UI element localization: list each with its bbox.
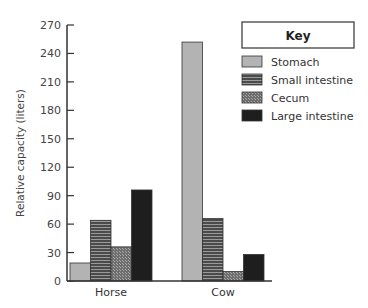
bar-cow-cecum [223,272,244,281]
y-tick-label: 90 [47,190,61,203]
bar-cow-stomach [182,42,203,281]
bar-horse-large-intestine [132,190,153,281]
y-tick-label: 240 [40,47,61,60]
legend-label: Large intestine [271,110,354,123]
x-category-label: Horse [95,286,127,299]
y-tick-label: 30 [47,247,61,260]
legend-swatch [242,74,262,85]
x-category-label: Cow [211,286,234,299]
bar-chart: Relative capacity (liters) 0306090120150… [0,0,368,308]
y-tick-label: 60 [47,218,61,231]
legend-swatch [242,92,262,103]
y-tick-label: 120 [40,161,61,174]
y-tick-label: 210 [40,76,61,89]
bar-horse-cecum [111,247,132,281]
legend-label: Stomach [271,56,320,69]
legend-label: Small intestine [271,74,353,87]
bar-cow-large-intestine [244,254,265,281]
legend-label: Cecum [271,92,309,105]
legend-swatch [242,110,262,121]
x-axis-labels: HorseCow [95,286,235,299]
legend-title: Key [285,29,310,43]
bars [70,42,264,281]
y-tick-label: 180 [40,104,61,117]
bar-horse-stomach [70,263,91,281]
y-axis-title: Relative capacity (liters) [14,89,26,217]
bar-cow-small-intestine [203,218,224,281]
legend-swatch [242,56,262,67]
legend: Key StomachSmall intestineCecumLarge int… [242,22,354,123]
y-tick-label: 270 [40,19,61,32]
bar-horse-small-intestine [91,220,112,281]
y-tick-label: 0 [54,275,61,288]
y-tick-label: 150 [40,133,61,146]
y-axis-ticks: 0306090120150180210240270 [40,19,74,288]
